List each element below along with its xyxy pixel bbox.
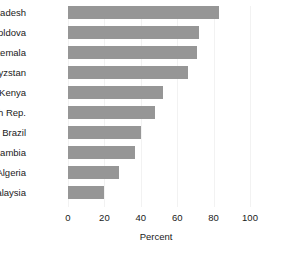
category-label: Brazil [2, 126, 26, 139]
bar-row [68, 86, 250, 106]
category-label: Kenya [0, 86, 26, 99]
x-axis-tick-labels: 020406080100 [0, 212, 290, 226]
gridline [250, 6, 251, 207]
bar [68, 86, 163, 99]
category-label: Kyrgyzstan [0, 66, 26, 79]
x-axis-title: Percent [0, 231, 290, 242]
bar [68, 186, 104, 199]
category-label: Moldova [0, 26, 26, 39]
bar-row [68, 106, 250, 126]
bar [68, 26, 199, 39]
bar [68, 166, 119, 179]
bar [68, 66, 188, 79]
category-label: Algeria [0, 166, 26, 179]
x-tick-label: 80 [208, 212, 219, 223]
bar-chart: BangladeshMoldovaGuatemalaKyrgyzstanKeny… [0, 0, 290, 253]
bar [68, 146, 135, 159]
bar-row [68, 146, 250, 166]
bar [68, 6, 219, 19]
bar [68, 126, 141, 139]
x-tick-label: 60 [172, 212, 183, 223]
bar-row [68, 126, 250, 146]
x-axis-title-text: Percent [140, 231, 173, 242]
x-tick-label: 100 [242, 212, 258, 223]
category-label: Bangladesh [0, 6, 26, 19]
bar [68, 106, 155, 119]
x-tick-label: 20 [99, 212, 110, 223]
category-label: Czech Rep. [0, 106, 26, 119]
bar-row [68, 186, 250, 206]
plot-area: BangladeshMoldovaGuatemalaKyrgyzstanKeny… [68, 6, 250, 207]
x-tick-label: 40 [136, 212, 147, 223]
bar [68, 46, 197, 59]
bar-row [68, 46, 250, 66]
bar-row [68, 6, 250, 26]
bar-row [68, 166, 250, 186]
category-label: Malaysia [0, 186, 26, 199]
x-tick-label: 0 [65, 212, 70, 223]
bar-row [68, 66, 250, 86]
category-label: Zambia [0, 146, 26, 159]
bar-row [68, 26, 250, 46]
category-label: Guatemala [0, 46, 26, 59]
